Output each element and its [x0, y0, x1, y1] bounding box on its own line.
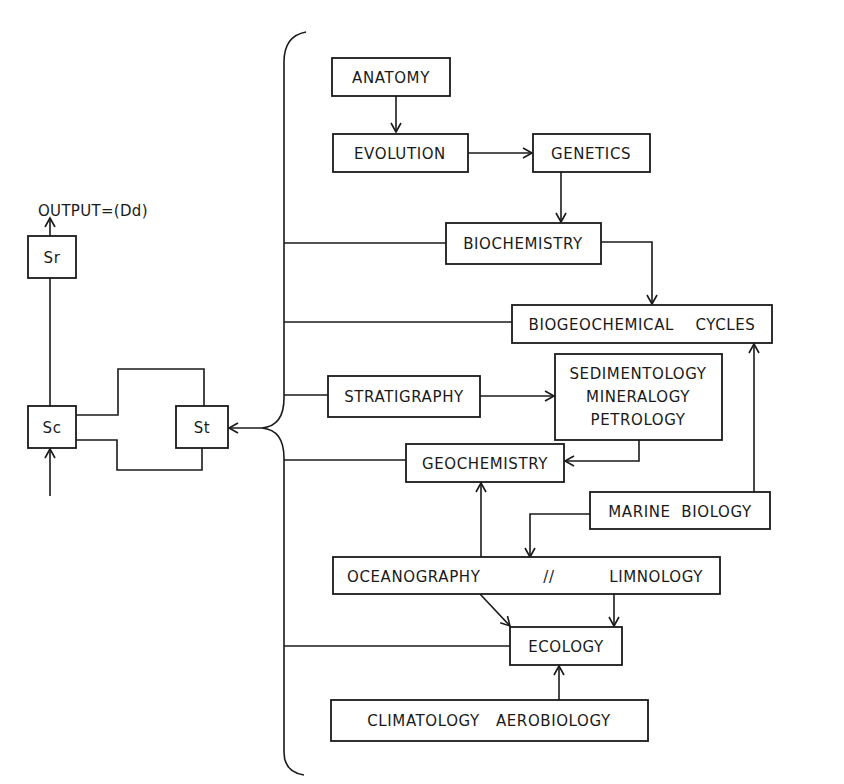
arrow-oceanography-ecology	[480, 594, 510, 626]
arrow-sedimentology-geochemistry	[565, 440, 639, 461]
node-biochemistry[interactable]: BIOCHEMISTRY	[446, 223, 601, 264]
node-marine-biology[interactable]: MARINE BIOLOGY	[590, 492, 770, 529]
node-geochemistry-label: GEOCHEMISTRY	[422, 455, 548, 473]
node-geochemistry[interactable]: GEOCHEMISTRY	[406, 444, 564, 482]
node-ecology[interactable]: ECOLOGY	[510, 627, 622, 665]
node-sc-label: Sc	[43, 419, 62, 437]
node-evolution[interactable]: EVOLUTION	[333, 134, 468, 172]
node-evolution-label: EVOLUTION	[354, 145, 446, 163]
left-system: OUTPUT=(Dd) Sr Sc St	[28, 202, 228, 496]
node-ecology-label: ECOLOGY	[528, 638, 604, 656]
node-st-label: St	[194, 419, 211, 437]
node-sr-label: Sr	[44, 249, 61, 267]
node-limnology-label: LIMNOLOGY	[609, 568, 703, 586]
node-oceanography-label: OCEANOGRAPHY	[347, 568, 481, 586]
node-sc[interactable]: Sc	[28, 406, 76, 448]
node-stratigraphy-label: STRATIGRAPHY	[344, 388, 464, 406]
node-climatology-aerobiology[interactable]: CLIMATOLOGY AEROBIOLOGY	[331, 700, 648, 741]
node-anatomy[interactable]: ANATOMY	[332, 58, 450, 96]
node-mineralogy-label: MINERALOGY	[586, 388, 690, 406]
node-sedimentology[interactable]: SEDIMENTOLOGY MINERALOGY PETROLOGY	[555, 354, 722, 440]
node-stratigraphy[interactable]: STRATIGRAPHY	[328, 376, 480, 417]
node-sr[interactable]: Sr	[28, 236, 76, 278]
separator-label: //	[543, 568, 555, 586]
node-oceanography-limnology[interactable]: OCEANOGRAPHY // LIMNOLOGY	[333, 557, 720, 594]
node-genetics-label: GENETICS	[551, 145, 631, 163]
flow-diagram: OUTPUT=(Dd) Sr Sc St ANATOMY EVOLUT	[0, 0, 844, 784]
node-biogeochemical-cycles[interactable]: BIOGEOCHEMICAL CYCLES	[512, 305, 772, 343]
node-sedimentology-label: SEDIMENTOLOGY	[569, 365, 706, 383]
output-label: OUTPUT=(Dd)	[38, 202, 148, 220]
node-anatomy-label: ANATOMY	[352, 69, 430, 87]
node-climatology-aerobiology-label: CLIMATOLOGY AEROBIOLOGY	[367, 712, 611, 730]
node-st[interactable]: St	[176, 406, 228, 448]
node-genetics[interactable]: GENETICS	[533, 134, 650, 172]
node-biogeochemical-cycles-label: BIOGEOCHEMICAL CYCLES	[529, 316, 756, 334]
arrow-biochemistry-biogeochemical	[601, 242, 652, 304]
node-marine-biology-label: MARINE BIOLOGY	[608, 503, 752, 521]
node-biochemistry-label: BIOCHEMISTRY	[463, 235, 583, 253]
arrow-marine-oceanography	[530, 514, 590, 557]
node-petrology-label: PETROLOGY	[591, 411, 686, 429]
